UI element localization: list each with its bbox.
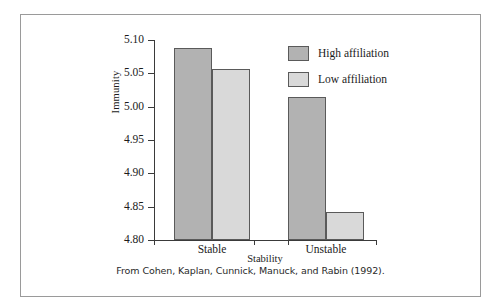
legend: High affiliationLow affiliation bbox=[288, 42, 389, 94]
bar bbox=[288, 97, 326, 240]
y-axis-tick-label-wrap: 5.10 bbox=[104, 34, 144, 46]
legend-label: Low affiliation bbox=[318, 73, 387, 85]
legend-swatch-icon bbox=[288, 72, 309, 87]
y-axis-tick-label: 5.10 bbox=[104, 34, 144, 46]
y-axis-tick-label: 4.95 bbox=[104, 134, 144, 146]
legend-label: High affiliation bbox=[318, 47, 389, 59]
bar-chart: 4.804.854.904.955.005.055.10 StableUnsta… bbox=[0, 0, 500, 308]
y-axis-tick bbox=[148, 73, 155, 74]
y-axis-tick-label-wrap: 4.95 bbox=[104, 134, 144, 146]
x-axis-tick bbox=[154, 240, 155, 245]
legend-item: Low affiliation bbox=[288, 68, 389, 90]
y-axis-tick-label-wrap: 4.90 bbox=[104, 167, 144, 179]
x-axis-tick bbox=[376, 240, 377, 245]
y-axis-tick-label: 4.90 bbox=[104, 167, 144, 179]
legend-swatch-icon bbox=[288, 46, 309, 61]
y-axis-tick bbox=[148, 40, 155, 41]
legend-item: High affiliation bbox=[288, 42, 389, 64]
y-axis-tick bbox=[148, 173, 155, 174]
y-axis-tick bbox=[148, 140, 155, 141]
y-axis-tick-label: 4.80 bbox=[104, 234, 144, 246]
y-axis-tick-label-wrap: 4.85 bbox=[104, 201, 144, 213]
figure-caption: From Cohen, Kaplan, Cunnick, Manuck, and… bbox=[20, 265, 481, 276]
y-axis-tick-label-wrap: 4.80 bbox=[104, 234, 144, 246]
bar bbox=[326, 212, 364, 240]
bar bbox=[212, 69, 250, 240]
y-axis-tick bbox=[148, 207, 155, 208]
x-axis-title: Stability bbox=[154, 253, 376, 264]
x-axis-line bbox=[154, 240, 376, 241]
bar bbox=[174, 48, 212, 240]
y-axis-tick bbox=[148, 107, 155, 108]
y-axis-tick-label: 4.85 bbox=[104, 201, 144, 213]
y-axis-title: Immunity bbox=[110, 52, 121, 132]
